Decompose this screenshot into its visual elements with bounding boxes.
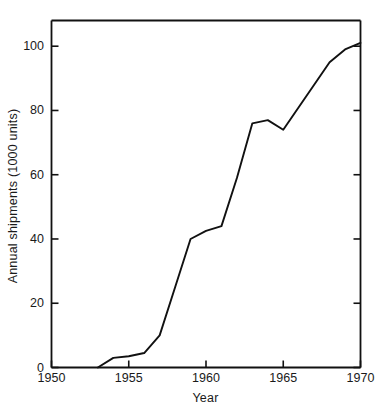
plot-area bbox=[0, 0, 383, 414]
data-series-line bbox=[98, 43, 361, 368]
axis-ticks bbox=[52, 46, 361, 367]
chart-figure: Annual shipments (1000 units) 0204060801… bbox=[0, 0, 383, 414]
plot-frame bbox=[52, 21, 361, 368]
